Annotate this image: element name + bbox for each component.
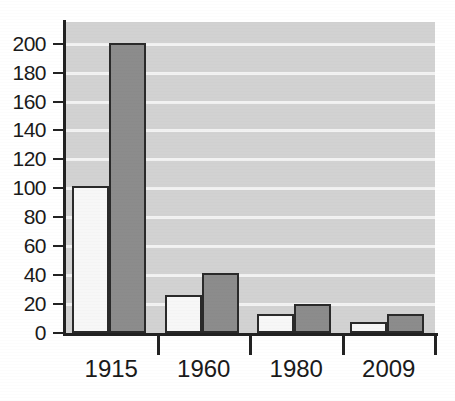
bar-2009-light-series [350, 322, 387, 333]
y-tick-80 [53, 216, 63, 218]
y-axis-label-20: 20 [0, 293, 46, 314]
x-axis-label-1915: 1915 [71, 357, 151, 381]
y-axis-label-60: 60 [0, 235, 46, 256]
y-tick-120 [53, 158, 63, 160]
bar-1960-dark-series [202, 273, 239, 333]
y-axis-label-180: 180 [0, 62, 46, 83]
x-axis-label-1980: 1980 [256, 357, 336, 381]
x-axis-label-1960: 1960 [164, 357, 244, 381]
y-tick-60 [53, 245, 63, 247]
y-tick-180 [53, 72, 63, 74]
x-separator-tick-4 [434, 333, 437, 355]
y-axis-label-0: 0 [0, 322, 46, 343]
y-axis-line [63, 20, 66, 335]
bar-chart: 020406080100120140160180200 191519601980… [0, 0, 455, 401]
y-tick-200 [53, 43, 63, 45]
bar-2009-dark-series [387, 314, 424, 333]
y-axis-label-200: 200 [0, 33, 46, 54]
y-tick-100 [53, 187, 63, 189]
y-tick-140 [53, 129, 63, 131]
x-separator-tick-3 [342, 333, 345, 355]
y-tick-40 [53, 274, 63, 276]
y-axis-label-100: 100 [0, 177, 46, 198]
bar-1980-light-series [257, 314, 294, 333]
y-axis-label-80: 80 [0, 206, 46, 227]
y-axis-label-140: 140 [0, 119, 46, 140]
y-axis-label-160: 160 [0, 91, 46, 112]
y-axis-label-40: 40 [0, 264, 46, 285]
bar-1915-light-series [72, 186, 109, 333]
x-axis-label-2009: 2009 [349, 357, 429, 381]
bars-group [65, 22, 435, 333]
x-separator-tick-2 [249, 333, 252, 355]
y-tick-160 [53, 101, 63, 103]
bar-1980-dark-series [294, 304, 331, 333]
y-tick-20 [53, 303, 63, 305]
bar-1915-dark-series [109, 43, 146, 333]
bar-1960-light-series [165, 295, 202, 333]
y-axis-label-120: 120 [0, 148, 46, 169]
x-separator-tick-1 [157, 333, 160, 355]
y-tick-0 [53, 332, 63, 334]
